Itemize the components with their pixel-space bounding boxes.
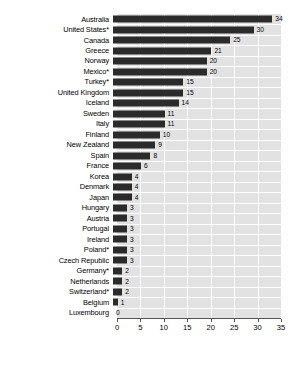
x-axis-tick (281, 319, 282, 322)
bar-value-label: 10 (163, 131, 170, 138)
bar-row: Greece21 (0, 45, 298, 55)
bar (113, 16, 272, 23)
category-label: Austria (0, 215, 113, 222)
category-label: Norway (0, 57, 113, 64)
category-label: Sweden (0, 110, 113, 117)
bar-track: 4 (113, 182, 298, 192)
bar-row: France6 (0, 161, 298, 171)
bar-value-label: 3 (130, 236, 134, 243)
bar-track: 3 (113, 234, 298, 244)
category-label: Finland (0, 131, 113, 138)
bar-track: 6 (113, 161, 298, 171)
bar (113, 163, 141, 170)
x-axis-tick-label: 20 (206, 324, 214, 332)
category-label: United Kingdom (0, 89, 113, 96)
bar-row: Hungary3 (0, 203, 298, 213)
bar (113, 246, 127, 253)
category-label: Canada (0, 37, 113, 44)
bar (113, 58, 207, 65)
bar-value-label: 0 (116, 310, 120, 317)
bar-track: 9 (113, 140, 298, 150)
x-axis-tick (258, 319, 259, 322)
category-label: Greece (0, 47, 113, 54)
category-label: Switzerland* (0, 288, 113, 295)
category-label: Iceland (0, 99, 113, 106)
bar-row: Belgium1 (0, 297, 298, 307)
bar-value-label: 21 (214, 47, 221, 54)
x-axis-tick (211, 319, 212, 322)
category-label: Poland* (0, 246, 113, 253)
bar-value-label: 2 (125, 268, 129, 275)
bar-row: Netherlands2 (0, 276, 298, 286)
x-axis-tick (187, 319, 188, 322)
bar-row: Denmark4 (0, 182, 298, 192)
bar-value-label: 20 (210, 58, 217, 65)
bar-track: 11 (113, 119, 298, 129)
bar-row: Czech Republic3 (0, 255, 298, 265)
category-label: New Zealand (0, 141, 113, 148)
bar-track: 3 (113, 224, 298, 234)
bar (113, 225, 127, 232)
bar-row: Spain8 (0, 150, 298, 160)
bar-row: Mexico*20 (0, 66, 298, 76)
bar-row: Switzerland*2 (0, 287, 298, 297)
bar (113, 26, 254, 33)
bar-chart: Australia34United States*30Canada25Greec… (0, 0, 298, 366)
bar-value-label: 3 (130, 226, 134, 233)
x-axis-tick (117, 319, 118, 322)
category-label: Italy (0, 120, 113, 127)
category-label: France (0, 162, 113, 169)
category-label: Czech Republic (0, 257, 113, 264)
bar-row: Luxembourg0 (0, 308, 298, 318)
category-label: Belgium (0, 299, 113, 306)
bar-track: 21 (113, 45, 298, 55)
x-axis-tick-labels: 05101520253035 (117, 319, 281, 339)
bar-value-label: 9 (158, 142, 162, 149)
category-label: Hungary (0, 204, 113, 211)
bar-row: Korea4 (0, 171, 298, 181)
bar (113, 110, 165, 117)
bar-value-label: 3 (130, 205, 134, 212)
bar-track: 4 (113, 171, 298, 181)
bar-value-label: 3 (130, 257, 134, 264)
category-label: Korea (0, 173, 113, 180)
bar-value-label: 1 (121, 299, 125, 306)
bar (113, 121, 165, 128)
bar-value-label: 4 (135, 184, 139, 191)
category-label: Spain (0, 152, 113, 159)
bar-track: 2 (113, 287, 298, 297)
bar-track: 0 (113, 308, 298, 318)
bar-value-label: 3 (130, 215, 134, 222)
x-axis-tick-label: 5 (138, 324, 142, 332)
category-label: United States* (0, 26, 113, 33)
bar-value-label: 30 (257, 26, 264, 33)
bar-value-label: 4 (135, 173, 139, 180)
bar-value-label: 15 (186, 89, 193, 96)
bar-row: Canada25 (0, 35, 298, 45)
x-axis-tick (140, 319, 141, 322)
x-axis-tick-label: 30 (253, 324, 261, 332)
bar-value-label: 11 (168, 121, 175, 128)
bar-row: New Zealand9 (0, 140, 298, 150)
bar-value-label: 25 (233, 37, 240, 44)
bar-row: United Kingdom15 (0, 87, 298, 97)
bar-track: 3 (113, 255, 298, 265)
bar (113, 37, 230, 44)
bar (113, 215, 127, 222)
bar-value-label: 3 (130, 247, 134, 254)
bar-row: Sweden11 (0, 108, 298, 118)
bar-track: 15 (113, 77, 298, 87)
bar-row: Australia34 (0, 14, 298, 24)
x-axis-tick (234, 319, 235, 322)
bar (113, 173, 132, 180)
bar-track: 2 (113, 276, 298, 286)
bar (113, 47, 211, 54)
bar-track: 3 (113, 213, 298, 223)
bar-row: Germany*2 (0, 266, 298, 276)
category-label: Netherlands (0, 278, 113, 285)
bar-value-label: 6 (144, 163, 148, 170)
category-label: Denmark (0, 183, 113, 190)
bar-track: 11 (113, 108, 298, 118)
bar-track: 2 (113, 266, 298, 276)
bar-value-label: 14 (182, 100, 189, 107)
